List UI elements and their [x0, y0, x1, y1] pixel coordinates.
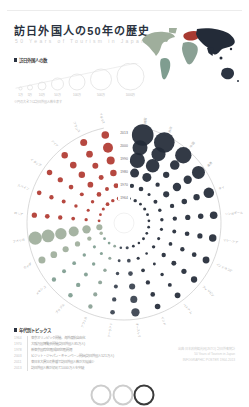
country-label: ドイツ [50, 139, 59, 148]
data-bubble [83, 253, 86, 256]
data-bubble [63, 246, 69, 252]
data-bubble [38, 256, 45, 263]
data-bubble [130, 184, 134, 188]
topic-row: 2013訪日外国人数が初めて1000万人を突破 [14, 366, 235, 372]
data-bubble [182, 199, 187, 204]
data-bubble [88, 182, 94, 188]
data-bubble [96, 224, 102, 230]
data-bubble [79, 172, 85, 178]
data-bubble [170, 160, 180, 170]
data-bubble [168, 283, 172, 287]
data-bubble [126, 246, 129, 249]
data-bubble [147, 226, 150, 229]
data-bubble [197, 233, 202, 238]
data-bubble [99, 232, 102, 235]
data-bubble [154, 132, 175, 153]
country-label: 韓国 [142, 118, 148, 125]
data-bubble [185, 215, 190, 220]
topics-header: 年代別トピックス [14, 327, 235, 333]
data-bubble [148, 219, 151, 222]
country-label: 中国 [188, 140, 196, 148]
legend-size-label: 1000万 [126, 93, 136, 97]
data-bubble [170, 204, 174, 208]
data-bubble [55, 228, 66, 239]
country-label: 香港 [206, 160, 214, 168]
data-bubble [114, 285, 118, 289]
page-subtitle: 50 Years of Tourism in Japan [15, 38, 146, 44]
data-bubble [69, 227, 79, 237]
data-bubble [128, 271, 133, 276]
data-bubble [133, 199, 136, 202]
country-label: イギリス [99, 112, 106, 125]
top-border-line [7, 10, 242, 11]
data-bubble [98, 280, 102, 284]
data-bubble [146, 213, 149, 216]
data-bubble [204, 188, 215, 199]
data-bubble [113, 245, 116, 248]
data-bubble [139, 203, 142, 206]
data-bubble [142, 173, 151, 182]
data-bubble [171, 261, 176, 266]
data-bubble [98, 219, 101, 222]
year-label: 1964 [120, 196, 128, 200]
country-label: シンガポール [224, 210, 242, 217]
data-bubble [82, 225, 90, 233]
data-bubble [160, 228, 163, 231]
data-bubble [58, 215, 62, 219]
data-bubble [173, 216, 177, 220]
data-bubble [146, 280, 150, 284]
data-bubble [74, 204, 77, 207]
data-bubble [180, 247, 184, 251]
data-bubble [175, 147, 191, 163]
data-bubble [93, 245, 96, 248]
data-bubble [52, 277, 56, 281]
legend-scale-line [16, 63, 147, 88]
legend-size-circle [52, 78, 64, 90]
credit-line: INFOGRAPHIC POSTER 1964-2013 [178, 358, 235, 363]
data-bubble [91, 200, 94, 203]
year-label: 2000 [120, 144, 128, 148]
data-bubble [106, 202, 110, 206]
data-bubble [155, 182, 159, 186]
topics-header-text: 年代別トピックス [19, 327, 51, 333]
data-bubble [145, 232, 148, 235]
data-bubble [209, 234, 216, 241]
data-bubble [160, 218, 163, 221]
data-bubble [132, 124, 154, 146]
data-bubble [153, 263, 156, 266]
map-asia [196, 28, 235, 54]
country-label: スペイン [17, 182, 30, 191]
data-bubble [141, 268, 145, 272]
map-new-zealand [237, 80, 239, 82]
map-japan [230, 48, 232, 50]
data-bubble [92, 262, 95, 265]
data-bubble [108, 257, 111, 260]
data-bubble [185, 231, 190, 236]
legend-size-label: 10万 [39, 93, 45, 97]
world-map [138, 27, 243, 93]
data-bubble [145, 252, 148, 255]
data-bubble [120, 247, 123, 250]
data-bubble [193, 194, 199, 200]
country-label: イタリア [30, 157, 43, 168]
year-label: 1990 [120, 157, 128, 161]
data-bubble [75, 241, 80, 246]
data-bubble [163, 172, 169, 178]
data-bubble [80, 139, 87, 146]
data-bubble [160, 273, 163, 276]
data-bubble [131, 308, 139, 316]
data-bubble [130, 153, 145, 168]
legend-size-label: 1万 [18, 93, 23, 97]
data-bubble [152, 245, 155, 248]
country-label: メキシコ [35, 285, 47, 296]
olympic-ring-2 [114, 386, 133, 405]
map-se-asia-island [220, 57, 223, 60]
data-bubble [157, 237, 160, 240]
data-bubble [107, 156, 115, 164]
data-bubble [101, 131, 109, 139]
legend-note: ※円の大きさは訪日外国人数を表す [14, 99, 62, 104]
data-bubble [72, 261, 76, 265]
data-bubble [29, 231, 42, 244]
topic-year: 2013 [14, 366, 27, 372]
data-bubble [143, 207, 146, 210]
